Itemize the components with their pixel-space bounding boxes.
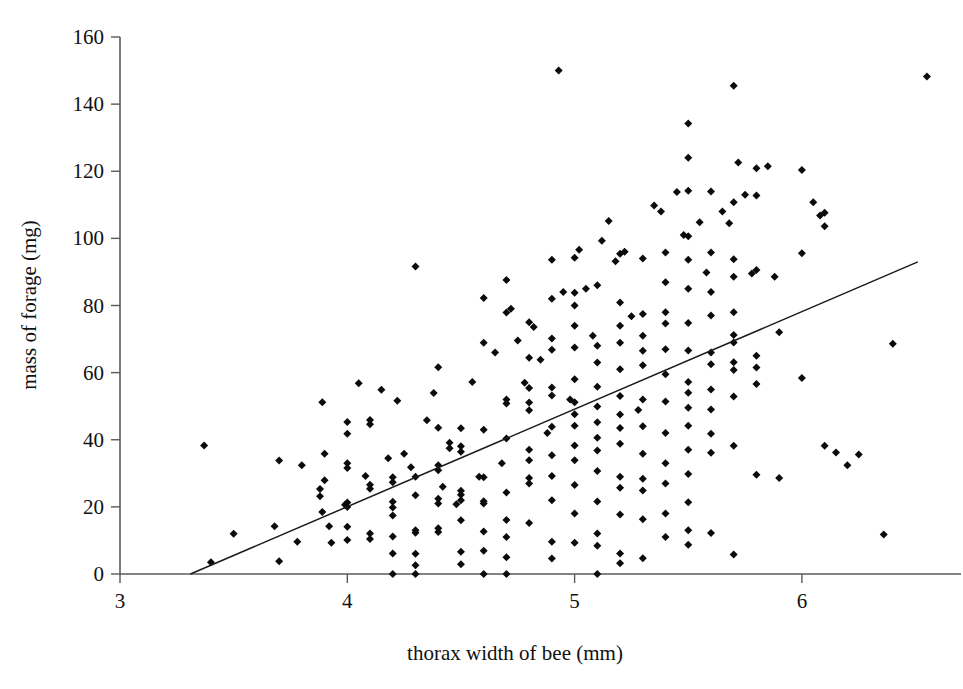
x-tick-label: 5 bbox=[569, 589, 580, 613]
y-tick-label: 40 bbox=[83, 428, 104, 452]
y-tick-label: 20 bbox=[83, 495, 104, 519]
y-axis-label: mass of forage (mg) bbox=[17, 220, 41, 390]
y-tick-label: 60 bbox=[83, 361, 104, 385]
x-axis-label: thorax width of bee (mm) bbox=[407, 641, 623, 665]
x-tick-label: 4 bbox=[342, 589, 353, 613]
scatter-plot-figure: 020406080100120140160 3456 thorax width … bbox=[0, 0, 963, 689]
y-tick-label: 140 bbox=[73, 92, 105, 116]
x-tick-label: 3 bbox=[115, 589, 126, 613]
x-tick-label: 6 bbox=[797, 589, 808, 613]
y-tick-label: 80 bbox=[83, 294, 104, 318]
y-tick-label: 160 bbox=[73, 25, 105, 49]
y-tick-label: 120 bbox=[73, 159, 105, 183]
scatter-plot-canvas: 020406080100120140160 3456 thorax width … bbox=[0, 0, 963, 689]
y-tick-label: 0 bbox=[94, 562, 105, 586]
y-tick-label: 100 bbox=[73, 226, 105, 250]
